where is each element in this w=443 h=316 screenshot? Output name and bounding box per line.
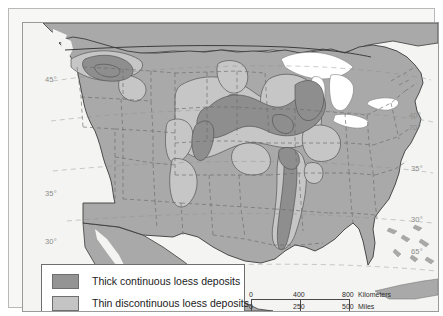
figure-page: 45° 35° 30° 40° 70° 35° 30° 65° Thick co… xyxy=(0,0,443,316)
figure-outer-frame: 45° 35° 30° 40° 70° 35° 30° 65° Thick co… xyxy=(8,8,435,308)
scalebar-km-label-800: 800 xyxy=(342,291,354,298)
graticule-label-left-45: 45° xyxy=(45,75,57,84)
scalebar-mi-line xyxy=(251,311,350,312)
legend-label-thick: Thick continuous loess deposits xyxy=(92,275,240,287)
graticule-label-right-65: 65° xyxy=(411,247,423,256)
graticule-label-right-30: 30° xyxy=(411,215,423,224)
legend-item-thin: Thin discontinuous loess deposits xyxy=(52,295,249,311)
graticule-label-left-30: 30° xyxy=(45,237,57,246)
graticule-label-right-70: 70° xyxy=(409,123,421,132)
graticule-label-left-35: 35° xyxy=(45,189,57,198)
map-scalebar: 0 400 800 Kilometers 0 250 500 Miles xyxy=(251,292,391,312)
map-canvas: 45° 35° 30° 40° 70° 35° 30° 65° Thick co… xyxy=(22,22,439,312)
scalebar-km-label-400: 400 xyxy=(293,291,305,298)
graticule-label-right-40: 40° xyxy=(409,111,421,120)
scalebar-mi-label-0: 0 xyxy=(249,303,253,310)
legend-label-thin: Thin discontinuous loess deposits xyxy=(92,297,249,309)
scalebar-mi-unit: Miles xyxy=(358,303,374,310)
graticule-label-right-35: 35° xyxy=(411,164,423,173)
legend-item-thick: Thick continuous loess deposits xyxy=(52,273,240,289)
scalebar-km-label-0: 0 xyxy=(249,291,253,298)
thin-loess-ohio-valley xyxy=(302,125,340,162)
scalebar-mi-label-500: 500 xyxy=(342,303,354,310)
thick-loess-swatch xyxy=(52,274,79,289)
scalebar-km-unit: Kilometers xyxy=(358,291,391,298)
map-legend: Thick continuous loess deposits Thin dis… xyxy=(41,264,245,312)
thin-loess-swatch xyxy=(52,296,79,311)
scalebar-mi-label-250: 250 xyxy=(293,303,305,310)
